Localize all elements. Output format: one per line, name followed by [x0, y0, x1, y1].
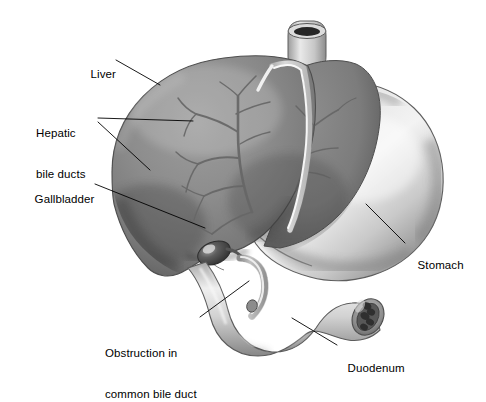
- label-stomach: Stomach: [411, 245, 464, 272]
- label-gallbladder: Gallbladder: [28, 179, 95, 206]
- common-bile-duct: [240, 257, 265, 316]
- label-gallbladder-text: Gallbladder: [35, 193, 95, 205]
- label-liver-text: Liver: [91, 68, 116, 80]
- label-obstruction-line1: Obstruction in: [105, 347, 197, 361]
- label-obstruction-common-bile-duct: Obstruction in common bile duct: [105, 320, 197, 402]
- label-stomach-text: Stomach: [418, 259, 464, 271]
- label-duodenum-text: Duodenum: [348, 362, 405, 374]
- label-liver: Liver: [84, 54, 116, 81]
- label-obstruction-line2: common bile duct: [105, 388, 197, 402]
- label-duodenum: Duodenum: [341, 348, 405, 375]
- leader-liver: [116, 60, 160, 85]
- esophagus-lumen: [294, 27, 320, 36]
- label-hepatic-bile-ducts-line1: Hepatic: [36, 127, 86, 141]
